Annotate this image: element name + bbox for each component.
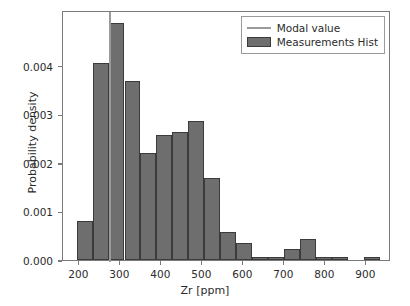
legend-label-modal-value: Modal value bbox=[277, 22, 341, 34]
x-tick-label: 400 bbox=[150, 268, 170, 280]
y-tick-mark bbox=[58, 260, 62, 261]
x-tick-label: 300 bbox=[109, 268, 129, 280]
y-tick-label: 0.000 bbox=[0, 255, 53, 267]
histogram-figure: Modal value Measurements Hist 0.0000.001… bbox=[0, 0, 410, 306]
legend-item-modal-value: Modal value bbox=[247, 21, 378, 35]
modal-value-line bbox=[109, 12, 111, 262]
chart-legend: Modal value Measurements Hist bbox=[241, 16, 385, 54]
legend-line-swatch-icon bbox=[247, 22, 271, 34]
x-tick-mark bbox=[201, 261, 202, 265]
y-tick-mark bbox=[58, 163, 62, 164]
y-tick-mark bbox=[58, 115, 62, 116]
x-tick-label: 500 bbox=[191, 268, 211, 280]
legend-patch-swatch-icon bbox=[247, 37, 271, 47]
x-tick-label: 600 bbox=[232, 268, 252, 280]
y-tick-mark bbox=[58, 66, 62, 67]
y-tick-mark bbox=[58, 212, 62, 213]
legend-label-measurements-hist: Measurements Hist bbox=[277, 36, 378, 48]
x-tick-mark bbox=[119, 261, 120, 265]
x-tick-mark bbox=[283, 261, 284, 265]
x-tick-mark bbox=[324, 261, 325, 265]
x-tick-label: 700 bbox=[273, 268, 293, 280]
legend-item-measurements-hist: Measurements Hist bbox=[247, 35, 378, 49]
y-axis-label: Probability density bbox=[26, 63, 39, 223]
x-tick-label: 200 bbox=[68, 268, 88, 280]
x-tick-mark bbox=[365, 261, 366, 265]
x-tick-mark bbox=[160, 261, 161, 265]
plot-area: Modal value Measurements Hist bbox=[62, 11, 390, 261]
x-tick-label: 800 bbox=[314, 268, 334, 280]
x-tick-mark bbox=[78, 261, 79, 265]
x-axis-label: Zr [ppm] bbox=[0, 284, 410, 297]
x-tick-label: 900 bbox=[355, 268, 375, 280]
x-tick-mark bbox=[242, 261, 243, 265]
